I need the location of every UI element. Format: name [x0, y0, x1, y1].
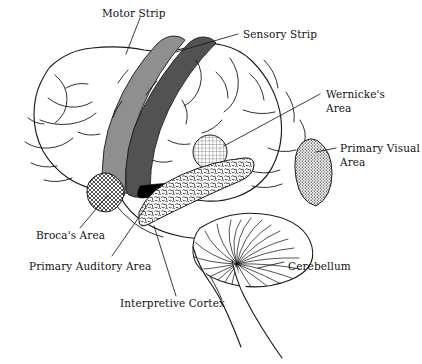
label-primary-visual-area-line1: Primary Visual: [340, 142, 420, 154]
label-brocas-area: Broca's Area: [36, 229, 105, 241]
brain-lateral-view-illustration: Motor Strip Sensory Strip Wernicke's Are…: [0, 0, 422, 364]
primary-visual-area-region: [292, 135, 340, 213]
label-wernickes-area-line2: Area: [325, 102, 351, 114]
label-motor-strip: Motor Strip: [102, 7, 166, 19]
label-primary-visual-area-line2: Area: [339, 156, 365, 168]
leader-interpretive-cortex: [154, 226, 176, 296]
leader-primary-auditory-area: [112, 204, 148, 256]
label-wernickes-area-line1: Wernicke's: [326, 88, 385, 100]
label-primary-auditory-area: Primary Auditory Area: [29, 260, 151, 272]
brain-diagram-figure: Motor Strip Sensory Strip Wernicke's Are…: [0, 0, 422, 364]
label-interpretive-cortex: Interpretive Cortex: [120, 297, 225, 309]
label-cerebellum: Cerebellum: [288, 260, 351, 272]
label-sensory-strip: Sensory Strip: [243, 28, 317, 40]
